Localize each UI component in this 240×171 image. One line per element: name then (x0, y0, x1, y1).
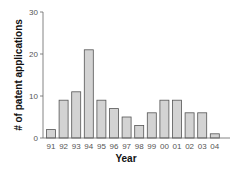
x-tick-label: 96 (110, 142, 119, 151)
x-tick-label: 00 (160, 142, 169, 151)
bar-99 (147, 113, 156, 138)
x-axis: 9192939495969798990001020304 (43, 138, 230, 151)
bar-94 (84, 50, 93, 138)
bar-02 (185, 113, 194, 138)
y-axis-title: # of patent applications (13, 19, 24, 131)
x-tick-label: 04 (210, 142, 219, 151)
y-tick-label: 30 (29, 8, 38, 17)
x-tick-label: 01 (173, 142, 182, 151)
bar-03 (198, 113, 207, 138)
x-axis-title: Year (115, 153, 136, 164)
bar-95 (97, 100, 106, 138)
bar-04 (210, 134, 219, 138)
bar-00 (160, 100, 169, 138)
x-tick-label: 91 (47, 142, 56, 151)
y-tick-label: 20 (29, 50, 38, 59)
x-tick-label: 95 (97, 142, 106, 151)
bar-01 (173, 100, 182, 138)
x-tick-label: 97 (122, 142, 131, 151)
bar-93 (72, 92, 81, 138)
x-tick-label: 99 (147, 142, 156, 151)
x-tick-label: 03 (198, 142, 207, 151)
bar-98 (135, 125, 144, 138)
x-tick-label: 92 (59, 142, 68, 151)
bar-96 (110, 109, 119, 138)
bar-chart: 0102030 9192939495969798990001020304 # o… (0, 0, 240, 171)
y-tick-label: 10 (29, 92, 38, 101)
bars (47, 50, 220, 138)
x-tick-label: 93 (72, 142, 81, 151)
y-tick-label: 0 (34, 134, 39, 143)
bar-97 (122, 117, 131, 138)
x-tick-label: 02 (185, 142, 194, 151)
bar-91 (47, 130, 56, 138)
bar-92 (59, 100, 68, 138)
x-tick-label: 94 (84, 142, 93, 151)
y-axis: 0102030 (29, 8, 43, 143)
x-tick-label: 98 (135, 142, 144, 151)
